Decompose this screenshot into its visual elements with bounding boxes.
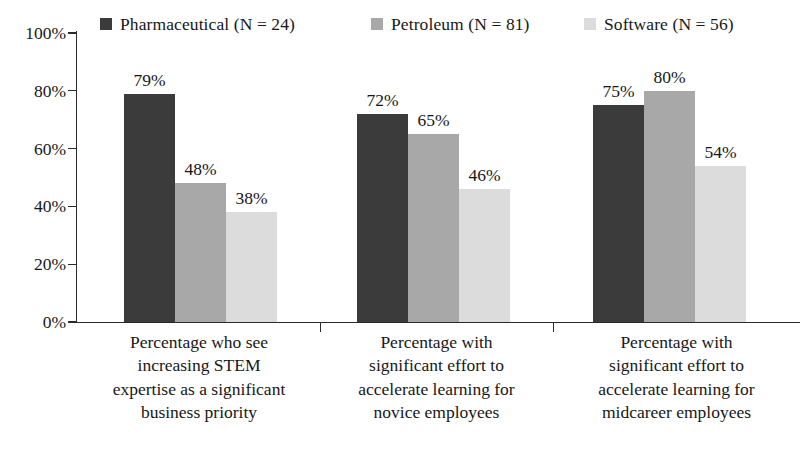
category-label-line: significant effort to xyxy=(320,354,553,377)
x-axis-line xyxy=(76,322,800,323)
bar[interactable] xyxy=(175,183,226,322)
category-label-line: business priority xyxy=(78,401,320,424)
bar-value-label: 54% xyxy=(704,142,736,163)
bar-value-label: 72% xyxy=(366,90,398,111)
bar[interactable] xyxy=(226,212,277,322)
bar-value-label: 65% xyxy=(417,110,449,131)
y-tick-label: 0% xyxy=(43,312,66,333)
y-tick-mark xyxy=(68,321,76,322)
category-label-line: increasing STEM xyxy=(78,354,320,377)
y-tick-mark xyxy=(68,148,76,149)
category-label-2: Percentage withsignificant effort toacce… xyxy=(553,331,800,424)
legend-label-petroleum: Petroleum (N = 81) xyxy=(391,14,530,35)
bar[interactable] xyxy=(593,105,644,322)
bar-value-label: 48% xyxy=(184,159,216,180)
category-label-line: Percentage with xyxy=(553,331,800,354)
legend-swatch-software xyxy=(584,18,596,30)
y-tick-label: 20% xyxy=(34,254,66,275)
category-label-line: Percentage with xyxy=(320,331,553,354)
y-tick-mark xyxy=(68,90,76,91)
bar-value-label: 38% xyxy=(235,188,267,209)
bar[interactable] xyxy=(124,94,175,322)
legend-swatch-pharmaceutical xyxy=(100,18,112,30)
y-tick-label: 100% xyxy=(25,23,66,44)
category-label-1: Percentage withsignificant effort toacce… xyxy=(320,331,553,424)
y-tick-label: 60% xyxy=(34,138,66,159)
bar[interactable] xyxy=(357,114,408,322)
bar-value-label: 46% xyxy=(468,165,500,186)
category-label-line: accelerate learning for xyxy=(320,378,553,401)
category-label-line: novice employees xyxy=(320,401,553,424)
y-tick-label: 40% xyxy=(34,196,66,217)
bar[interactable] xyxy=(644,91,695,322)
bar[interactable] xyxy=(459,189,510,322)
bar-chart: Pharmaceutical (N = 24) Petroleum (N = 8… xyxy=(0,0,812,453)
y-tick-label: 80% xyxy=(34,80,66,101)
y-tick-mark xyxy=(68,32,76,33)
y-tick-mark xyxy=(68,264,76,265)
bar-value-label: 75% xyxy=(602,81,634,102)
legend-label-pharmaceutical: Pharmaceutical (N = 24) xyxy=(120,14,295,35)
bar[interactable] xyxy=(695,166,746,322)
category-label-line: significant effort to xyxy=(553,354,800,377)
category-label-line: accelerate learning for xyxy=(553,378,800,401)
bar-value-label: 79% xyxy=(133,70,165,91)
legend-label-software: Software (N = 56) xyxy=(604,14,734,35)
bar-value-label: 80% xyxy=(653,67,685,88)
legend-swatch-petroleum xyxy=(371,18,383,30)
category-label-0: Percentage who seeincreasing STEMexperti… xyxy=(78,331,320,424)
category-label-line: Percentage who see xyxy=(78,331,320,354)
bar[interactable] xyxy=(408,134,459,322)
category-label-line: midcareer employees xyxy=(553,401,800,424)
y-tick-mark xyxy=(68,206,76,207)
category-label-line: expertise as a significant xyxy=(78,378,320,401)
